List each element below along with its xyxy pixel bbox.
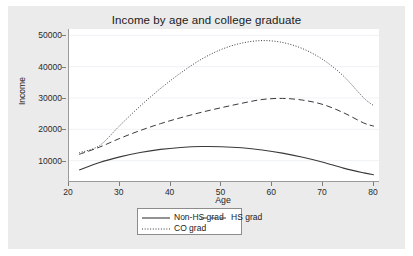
y-axis-tick-mark bbox=[62, 67, 66, 68]
legend-label: HS grad bbox=[231, 212, 262, 222]
x-axis-tick-mark bbox=[119, 182, 120, 186]
x-axis-tick-mark bbox=[271, 182, 272, 186]
x-axis-tick-mark bbox=[170, 182, 171, 186]
y-axis-ticks: 1000020000300004000050000 bbox=[0, 29, 62, 181]
legend-key-solid bbox=[142, 214, 170, 224]
y-axis-tick-mark bbox=[62, 129, 66, 130]
y-axis-tick-label: 30000 bbox=[38, 93, 62, 103]
legend-label: CO grad bbox=[174, 223, 206, 233]
x-axis-tick-mark bbox=[220, 182, 221, 186]
legend-key-dotted bbox=[142, 225, 170, 235]
plot-lines bbox=[69, 29, 379, 181]
y-axis-tick-mark bbox=[62, 35, 66, 36]
y-axis-tick-label: 20000 bbox=[38, 124, 62, 134]
legend-key-dashed bbox=[201, 214, 229, 224]
x-axis-tick-mark bbox=[373, 182, 374, 186]
x-axis-title: Age bbox=[68, 195, 378, 205]
x-axis-tick-mark bbox=[322, 182, 323, 186]
y-axis-tick-label: 50000 bbox=[38, 30, 62, 40]
plot-area bbox=[68, 29, 379, 182]
series-line-hs-grad bbox=[79, 98, 374, 154]
page-title: Income by age and college graduate bbox=[0, 14, 413, 26]
y-axis-tick-mark bbox=[62, 161, 66, 162]
y-axis-tick-label: 10000 bbox=[38, 156, 62, 166]
series-line-co-grad bbox=[79, 41, 374, 153]
y-axis-tick-mark bbox=[62, 98, 66, 99]
x-axis-tick-mark bbox=[68, 182, 69, 186]
legend: Non-HS gradHS gradCO grad bbox=[137, 208, 242, 235]
y-axis-tick-label: 40000 bbox=[38, 62, 62, 72]
chart-screenshot: Income by age and college graduate Incom… bbox=[0, 0, 413, 256]
